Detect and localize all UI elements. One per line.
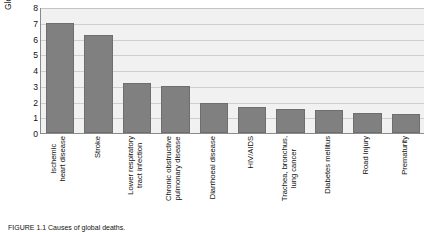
x-label-slot: Lower respiratorytract infection	[117, 134, 155, 222]
bar	[353, 113, 381, 133]
y-tick-label-5: 5	[22, 51, 38, 60]
bars-layer	[41, 8, 424, 133]
x-axis-label: Ischemicheart disease	[51, 136, 68, 182]
x-axis-label: HIV/AIDS	[247, 136, 256, 169]
x-label-slot: Diabetes mellitus	[309, 134, 347, 222]
x-label-slot: Prematurity	[386, 134, 424, 222]
y-tick-label-2: 2	[22, 98, 38, 107]
figure-caption: FIGURE 1.1 Causes of global deaths.	[8, 224, 432, 232]
bar	[200, 103, 228, 133]
y-tick-label-3: 3	[22, 82, 38, 91]
y-tick-label-4: 4	[22, 67, 38, 76]
x-label-slot: Trachea, bronchus,lung cancer	[270, 134, 308, 222]
bar	[392, 114, 420, 133]
y-tick-label-0: 0	[22, 130, 38, 139]
x-axis-label: Stroke	[93, 136, 102, 158]
bar	[84, 35, 112, 133]
x-axis-label: Prematurity	[400, 136, 409, 175]
x-label-slot: Ischemicheart disease	[40, 134, 78, 222]
x-axis-label: Lower respiratorytract infection	[127, 136, 144, 195]
bar	[161, 86, 189, 133]
y-axis-title: Global deaths (millions)	[0, 0, 16, 28]
x-label-slot: HIV/AIDS	[232, 134, 270, 222]
x-label-slot: Chronic obstructivepulmonary disease	[155, 134, 193, 222]
bar	[315, 110, 343, 133]
y-tick-label-7: 7	[22, 19, 38, 28]
y-tick-label-8: 8	[22, 4, 38, 13]
bar	[46, 23, 74, 133]
y-tick-label-1: 1	[22, 114, 38, 123]
x-axis-label: Road injury	[362, 136, 371, 174]
x-axis-label: Diarrhoeal disease	[208, 136, 217, 199]
plot-area	[40, 8, 424, 134]
figure-bar-chart: Global deaths (millions) 012345678 Ische…	[0, 0, 437, 232]
x-axis-label: Trachea, bronchus,lung cancer	[281, 136, 298, 201]
x-axis-label: Chronic obstructivepulmonary disease	[166, 136, 183, 201]
y-tick-label-6: 6	[22, 35, 38, 44]
x-axis-category-labels: Ischemicheart diseaseStrokeLower respira…	[40, 134, 424, 224]
x-axis-label: Diabetes mellitus	[324, 136, 333, 194]
y-axis-tick-labels: 012345678	[22, 8, 38, 134]
x-label-slot: Stroke	[78, 134, 116, 222]
bar	[276, 109, 304, 133]
bar	[238, 107, 266, 133]
x-label-slot: Diarrhoeal disease	[194, 134, 232, 222]
bar	[123, 83, 151, 133]
x-label-slot: Road injury	[347, 134, 385, 222]
